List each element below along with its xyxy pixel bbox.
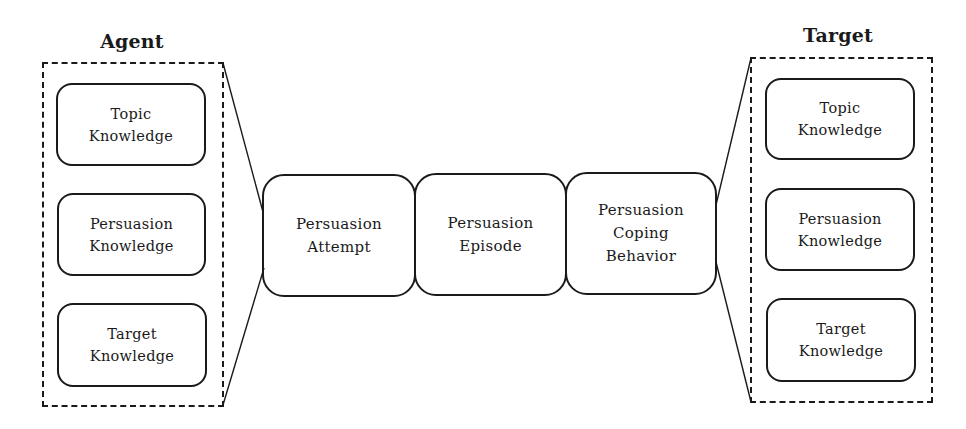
node-label: Persuasion Coping Behavior <box>598 199 684 268</box>
target-persuasion-knowledge-node: Persuasion Knowledge <box>765 188 915 271</box>
persuasion-coping-behavior-node: Persuasion Coping Behavior <box>565 172 717 295</box>
node-label: Topic Knowledge <box>798 97 882 141</box>
node-label: Persuasion Episode <box>448 212 534 258</box>
agent-topic-knowledge-node: Topic Knowledge <box>56 83 206 166</box>
agent-target-knowledge-node: Target Knowledge <box>57 303 207 387</box>
node-label: Persuasion Attempt <box>296 213 382 259</box>
target-topic-knowledge-node: Topic Knowledge <box>765 78 915 160</box>
target-target-knowledge-node: Target Knowledge <box>766 298 916 382</box>
node-label: Target Knowledge <box>799 318 883 362</box>
target-title: Target <box>788 24 888 46</box>
node-label: Persuasion Knowledge <box>89 213 173 257</box>
node-label: Persuasion Knowledge <box>798 208 882 252</box>
agent-persuasion-knowledge-node: Persuasion Knowledge <box>57 193 206 276</box>
target-bottom-connector <box>716 262 751 402</box>
node-label: Topic Knowledge <box>89 103 173 147</box>
agent-title: Agent <box>82 30 182 52</box>
agent-bottom-connector <box>223 268 264 405</box>
agent-top-connector <box>223 63 263 212</box>
target-top-connector <box>716 58 751 205</box>
persuasion-episode-node: Persuasion Episode <box>414 173 567 296</box>
persuasion-attempt-node: Persuasion Attempt <box>262 174 416 297</box>
node-label: Target Knowledge <box>90 323 174 367</box>
